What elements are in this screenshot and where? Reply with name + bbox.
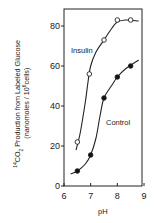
isotope-superscript: 14 <box>12 162 18 168</box>
insulin-data-point <box>102 38 107 43</box>
insulin-data-point <box>87 72 92 77</box>
ylabel-units-sup: 6 <box>21 84 27 87</box>
insulin-curve <box>76 20 139 150</box>
insulin-data-point <box>128 18 133 23</box>
ylabel-units-open: (nanomoles / 10 <box>22 87 31 139</box>
control-curve <box>71 60 139 174</box>
control-data-point <box>88 153 93 158</box>
control-data-point <box>115 75 120 80</box>
y-axis-title-line2: (nanomoles / 106cells) <box>21 18 31 188</box>
y-tick-label: 20 <box>50 141 60 151</box>
x-axis-title: pH <box>98 207 108 216</box>
insulin-series-label: Insulin <box>71 46 93 55</box>
y-tick-label: 40 <box>50 101 60 111</box>
control-data-point <box>102 96 107 101</box>
insulin-data-point <box>75 140 80 145</box>
x-tick-label: 9 <box>141 191 146 201</box>
y-tick-label: 60 <box>50 61 60 71</box>
y-tick-label: 0 <box>55 181 60 191</box>
x-tick-label: 6 <box>61 191 66 201</box>
control-data-point <box>128 64 133 69</box>
control-data-point <box>75 169 80 174</box>
x-tick-label: 7 <box>88 191 93 201</box>
control-series-label: Control <box>106 118 131 127</box>
insulin-data-point <box>115 18 120 23</box>
x-tick-label: 8 <box>115 191 120 201</box>
ylabel-units-close: cells) <box>22 68 31 85</box>
y-tick-label: 80 <box>50 21 60 31</box>
y-axis-ticks: 020406080 <box>50 21 64 191</box>
series-markers <box>75 18 133 174</box>
